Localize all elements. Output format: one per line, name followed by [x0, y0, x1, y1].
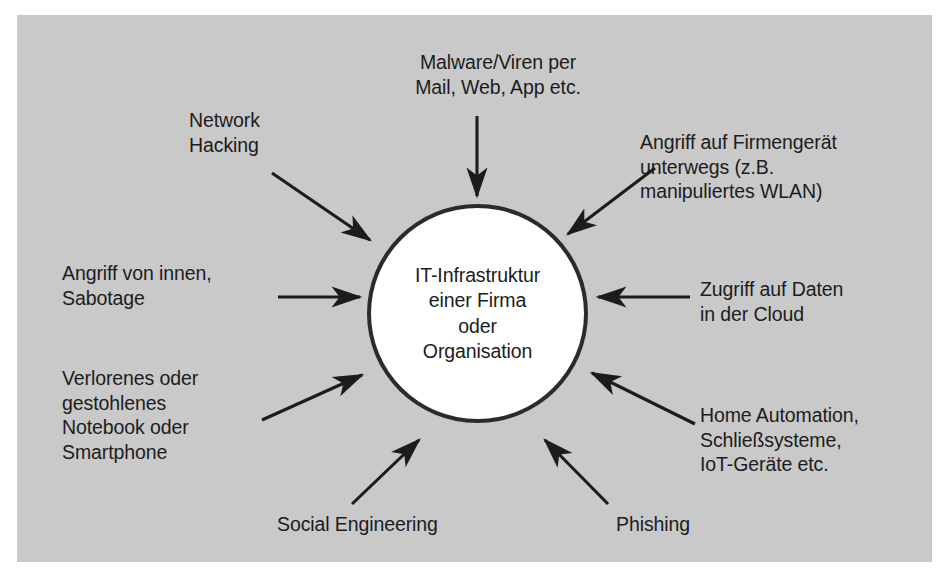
threat-label-social-engineering: Social Engineering [277, 512, 507, 537]
threat-label-network-hacking: Network Hacking [189, 108, 379, 157]
center-node-label: IT-Infrastruktur einer Firma oder Organi… [415, 263, 540, 364]
threat-label-cloud-data-access: Zugriff auf Daten in der Cloud [700, 277, 930, 326]
threat-diagram: IT-Infrastruktur einer Firma oder Organi… [0, 0, 949, 580]
threat-label-insider-attack: Angriff von innen, Sabotage [62, 261, 312, 310]
threat-label-phishing: Phishing [616, 512, 746, 537]
threat-label-iot: Home Automation, Schließsysteme, IoT-Ger… [700, 403, 940, 477]
threat-label-malware: Malware/Viren per Mail, Web, App etc. [363, 50, 633, 99]
center-node: IT-Infrastruktur einer Firma oder Organi… [367, 204, 588, 423]
threat-label-mobile-device-attack: Angriff auf Firmengerät unterwegs (z.B. … [640, 130, 930, 204]
threat-label-lost-device: Verlorenes oder gestohlenes Notebook ode… [62, 366, 297, 464]
